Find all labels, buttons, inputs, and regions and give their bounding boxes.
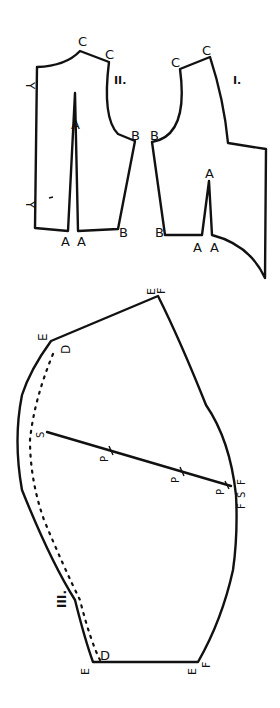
label-II-A1: A [61, 234, 70, 249]
label-III-D-bottom: D [100, 648, 110, 663]
piece-II-mark [49, 197, 53, 198]
piece-III-center-line [47, 432, 231, 486]
label-I-A-apex: A [205, 166, 214, 181]
piece-III-label: III. [55, 590, 69, 608]
label-II-Y2: Y [23, 200, 37, 209]
piece-III-dotted-seam [30, 354, 100, 660]
label-III-S-left: S [35, 432, 46, 438]
label-III-P3: P [215, 489, 226, 495]
label-II-C1: C [78, 34, 87, 49]
label-II-B1: B [131, 128, 140, 143]
label-I-B2: B [155, 225, 164, 240]
label-III-P1: P [99, 456, 110, 462]
pattern-piece-II: C C II. B B A A A Y Y [23, 34, 140, 249]
label-III-F-right1: F [236, 479, 247, 485]
label-II-Y1: Y [23, 81, 37, 90]
pattern-piece-I: C C I. B B A A A [150, 43, 266, 278]
label-III-F-right2: F [236, 503, 247, 509]
sewing-pattern-diagram: C C II. B B A A A Y Y C C I. B B A A A E… [0, 0, 280, 708]
label-I-B1: B [150, 128, 159, 143]
label-III-F-bottom: F [200, 662, 213, 668]
piece-I-label: I. [233, 74, 241, 87]
label-III-E-left: E [36, 333, 50, 341]
label-III-S-right: S [236, 492, 247, 498]
label-I-A1: A [193, 240, 202, 255]
label-II-A2: A [77, 234, 86, 249]
label-I-A2: A [210, 240, 219, 255]
label-I-C2: C [202, 43, 211, 58]
piece-II-label: II. [114, 74, 126, 87]
label-III-F-top: F [155, 288, 168, 294]
label-I-C1: C [171, 55, 180, 70]
label-III-D-top: D [59, 345, 73, 354]
label-III-E-bottom-left: E [79, 668, 92, 675]
label-II-A-apex: A [71, 117, 80, 132]
label-III-P2: P [170, 477, 181, 483]
label-III-E-bottom-right: E [186, 668, 199, 675]
label-II-C2: C [105, 47, 114, 62]
label-II-B2: B [119, 225, 128, 240]
pattern-piece-III: E F E D S P P P F S F III. D E E F [18, 288, 248, 675]
